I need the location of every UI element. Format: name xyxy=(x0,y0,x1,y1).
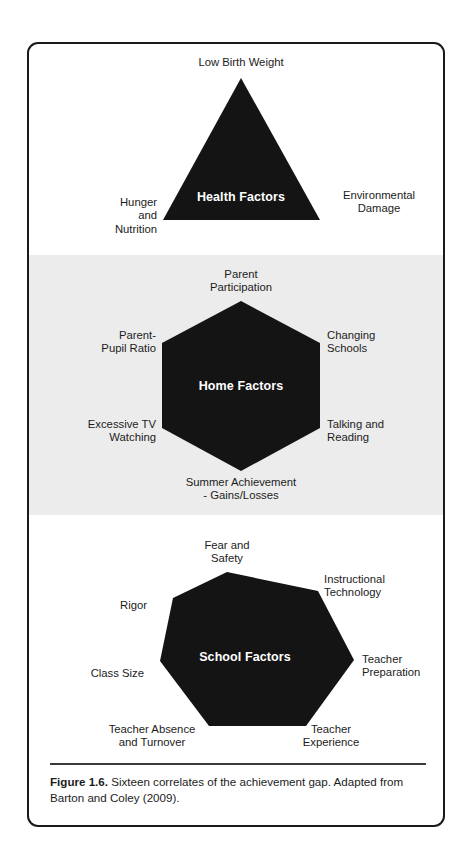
node-parent-pupil-ratio: Parent- Pupil Ratio xyxy=(55,329,156,356)
node-teacher-experience: Teacher Experience xyxy=(271,723,391,750)
node-environmental-damage: Environmental Damage xyxy=(319,189,439,216)
caption-figure-number: Figure 1.6. xyxy=(50,775,108,788)
node-instructional-technology: Instructional Technology xyxy=(324,573,439,600)
node-teacher-absence-and-turnover: Teacher Absence and Turnover xyxy=(62,723,242,750)
node-fear-and-safety: Fear and Safety xyxy=(204,539,249,566)
caption-body: Figure 1.6. Sixteen correlates of the ac… xyxy=(50,774,426,805)
cluster-home-factors: Home Factors Parent Participation Parent… xyxy=(29,255,443,515)
figure-caption: Figure 1.6. Sixteen correlates of the ac… xyxy=(50,763,426,805)
node-excessive-tv-watching: Excessive TV Watching xyxy=(45,418,156,445)
caption-divider xyxy=(50,763,426,765)
node-hunger-and-nutrition: Hunger and Nutrition xyxy=(57,196,157,236)
node-summer-achievement: Summer Achievement - Gains/Losses xyxy=(146,476,336,503)
figure-container: Health Factors Low Birth Weight Hunger a… xyxy=(0,0,473,865)
node-low-birth-weight: Low Birth Weight xyxy=(198,56,283,69)
node-class-size: Class Size xyxy=(58,667,144,680)
node-changing-schools: Changing Schools xyxy=(327,329,437,356)
node-rigor: Rigor xyxy=(77,599,147,612)
cluster-health-factors: Health Factors Low Birth Weight Hunger a… xyxy=(29,44,443,255)
node-teacher-preparation: Teacher Preparation xyxy=(362,653,445,680)
figure-frame: Health Factors Low Birth Weight Hunger a… xyxy=(27,42,445,827)
node-talking-and-reading: Talking and Reading xyxy=(327,418,437,445)
node-parent-participation: Parent Participation xyxy=(210,268,272,295)
cluster-school-factors: School Factors Fear and Safety Instructi… xyxy=(29,515,443,760)
